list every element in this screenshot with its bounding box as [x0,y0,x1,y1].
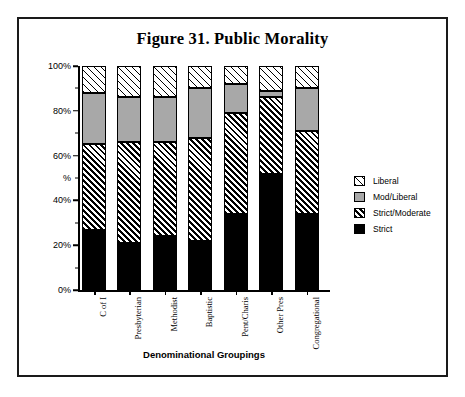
plot-area: 0%20%40%60%80%100%% [78,66,326,290]
bar-segment[interactable] [188,241,212,290]
y-tick-minor-mark [75,88,78,89]
dense-hatch-swatch [354,208,365,218]
category-label: Baptistic [204,297,214,327]
y-tick-label: 100% [48,61,71,71]
x-tick-mark [307,290,309,295]
y-tick-label: 40% [53,195,71,205]
category-label: Presbyterian [133,297,143,340]
chart-legend: LiberalMod/LiberalStrict/ModerateStrict [354,173,431,237]
bar-column[interactable] [82,66,106,290]
x-tick-mark [94,290,96,295]
gray-swatch [354,192,365,202]
x-tick-mark [200,290,202,295]
bar-column[interactable] [188,66,212,290]
y-tick-mark [73,289,78,291]
y-tick-label: 80% [53,106,71,116]
bar-segment[interactable] [295,131,319,214]
legend-label: Liberal [373,176,399,186]
bar-segment[interactable] [153,66,177,97]
bar-segment[interactable] [295,66,319,88]
y-tick-mark [73,244,78,246]
bar-segment[interactable] [295,214,319,290]
x-tick-mark [271,290,273,295]
bar-column[interactable] [295,66,319,290]
bar-segment[interactable] [188,88,212,137]
bar-segment[interactable] [188,66,212,88]
y-tick-minor-mark [75,178,78,179]
bar-segment[interactable] [153,97,177,142]
bar-segment[interactable] [82,93,106,145]
bar-segment[interactable] [117,97,141,142]
category-label: Congregational [311,297,321,349]
y-tick-mark [73,155,78,157]
bar-segment[interactable] [82,230,106,290]
category-label: Pent/Charis [240,297,250,337]
bar-segment[interactable] [117,66,141,97]
bar-column[interactable] [259,66,283,290]
bar-segment[interactable] [224,84,248,113]
legend-label: Strict/Moderate [373,208,431,218]
x-axis-title: Denominational Groupings [59,349,349,360]
category-label: C of I [98,297,108,317]
y-tick-label: 60% [53,151,71,161]
x-tick-mark [129,290,131,295]
category-label: Other Pres [275,297,285,333]
bar-column[interactable] [117,66,141,290]
black-swatch [354,224,365,234]
bar-segment[interactable] [82,144,106,229]
bar-segment[interactable] [259,91,283,98]
y-tick-mark [73,65,78,67]
bar-segment[interactable] [224,66,248,84]
bar-segment[interactable] [117,142,141,243]
legend-item[interactable]: Strict/Moderate [354,205,431,220]
y-axis-line [78,66,80,290]
bar-segment[interactable] [153,236,177,290]
y-tick-mark [73,110,78,112]
y-axis-label: % [63,173,71,183]
x-tick-mark [236,290,238,295]
bar-segment[interactable] [82,66,106,93]
bar-segment[interactable] [153,142,177,236]
bar-segment[interactable] [295,88,319,131]
page-title: Figure 31. Public Morality [19,29,446,49]
legend-label: Strict [373,224,392,234]
legend-item[interactable]: Liberal [354,173,431,188]
legend-item[interactable]: Mod/Liberal [354,189,431,204]
bar-column[interactable] [224,66,248,290]
y-tick-mark [73,200,78,202]
bar-segment[interactable] [259,174,283,290]
bar-segment[interactable] [224,113,248,214]
y-tick-minor-mark [75,222,78,223]
y-tick-label: 20% [53,240,71,250]
bar-segment[interactable] [259,97,283,173]
y-tick-minor-mark [75,267,78,268]
y-tick-minor-mark [75,133,78,134]
legend-label: Mod/Liberal [373,192,417,202]
bar-segment[interactable] [224,214,248,290]
y-tick-label: 0% [58,285,71,295]
bar-segment[interactable] [117,243,141,290]
category-label: Methodist [169,297,179,331]
figure-frame: Figure 31. Public Morality 0%20%40%60%80… [17,17,448,377]
legend-item[interactable]: Strict [354,221,431,236]
light-hatch-swatch [354,176,365,186]
x-axis-line [78,290,330,292]
bar-column[interactable] [153,66,177,290]
x-tick-mark [165,290,167,295]
bar-segment[interactable] [259,66,283,91]
bar-segment[interactable] [188,138,212,241]
